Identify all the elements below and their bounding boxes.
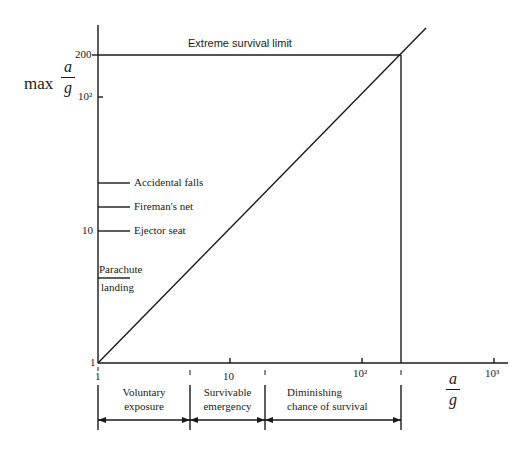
- frac-denominator: g: [64, 79, 72, 96]
- y-tick-1: 1: [90, 356, 96, 368]
- extreme-limit-label: Extreme survival limit: [188, 37, 292, 49]
- accidental-falls-label: Accidental falls: [134, 176, 203, 188]
- parachute-label-2: landing: [101, 281, 134, 293]
- y-tick-100: 10²: [78, 90, 92, 102]
- x-axis-label-fraction: a g: [446, 370, 460, 409]
- region-survivable-l2: emergency: [190, 400, 265, 412]
- region-survivable-l1: Survivable: [190, 386, 265, 398]
- region-diminishing-l2: chance of survival: [287, 400, 368, 412]
- x-tick-1: 1: [95, 370, 101, 382]
- x-tick-100: 10²: [353, 367, 367, 379]
- y-tick-200: 200: [75, 48, 92, 60]
- region-diminishing-l1: Diminishing: [287, 386, 342, 398]
- frac-denominator: g: [449, 391, 457, 408]
- diagonal-line: [98, 28, 426, 363]
- parachute-label-1: Parachute: [99, 263, 142, 275]
- frac-numerator: a: [449, 370, 457, 387]
- ejector-seat-label: Ejector seat: [134, 224, 186, 236]
- x-tick-10: 10: [223, 370, 234, 382]
- frac-numerator: a: [64, 58, 72, 75]
- region-voluntary-l1: Voluntary: [98, 386, 190, 398]
- region-voluntary-l2: exposure: [98, 400, 190, 412]
- firemans-net-label: Fireman's net: [134, 200, 193, 212]
- y-axis-label-prefix: max: [24, 74, 53, 94]
- y-tick-10: 10: [82, 224, 93, 236]
- y-axis-label-fraction: a g: [61, 58, 75, 97]
- x-tick-1000: 10³: [485, 367, 499, 379]
